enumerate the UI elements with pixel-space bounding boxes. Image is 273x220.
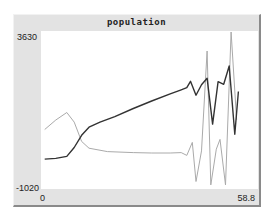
series-light-line (45, 32, 237, 185)
plot-area (41, 31, 258, 189)
y-max-label: 3630 (17, 32, 37, 42)
plot-widget: population 3630 -1020 0 58.8 (13, 14, 261, 207)
x-min-label: 0 (40, 193, 45, 203)
chart-title: population (14, 17, 259, 27)
x-max-label: 58.8 (237, 193, 255, 203)
chart-lines (41, 31, 258, 189)
y-min-label: -1020 (16, 183, 39, 193)
